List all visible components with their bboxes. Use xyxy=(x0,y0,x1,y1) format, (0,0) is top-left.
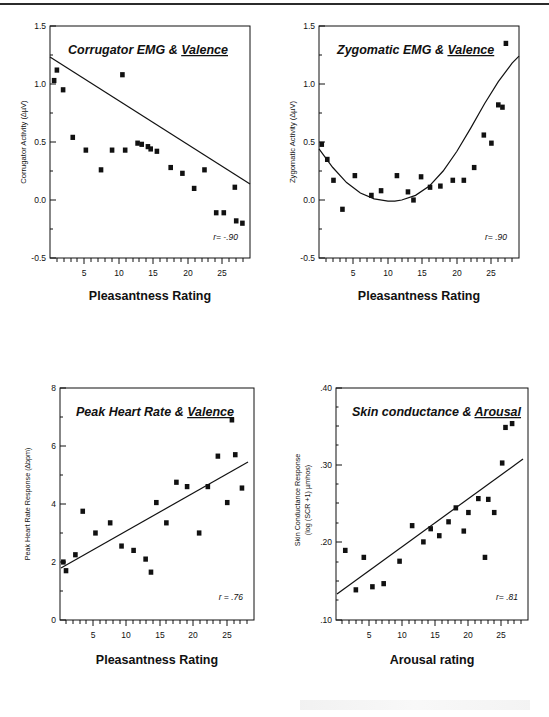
data-point xyxy=(214,210,219,215)
data-point xyxy=(73,552,78,557)
panel-title: Corrugator EMG & Valence xyxy=(68,43,228,57)
x-axis-ticks xyxy=(57,258,243,264)
data-point xyxy=(504,41,509,46)
data-point xyxy=(370,584,375,589)
panel-title: Skin conductance & Arousal xyxy=(352,405,522,419)
plot-frame xyxy=(50,26,250,258)
data-point xyxy=(381,581,386,586)
panel-title-underlined: Valence xyxy=(447,43,494,57)
data-point xyxy=(206,484,211,489)
scatter-plot-skin-conductance: .40 .30 .20 .10 xyxy=(280,370,548,710)
x-tick-label: 15 xyxy=(155,630,165,640)
x-tick-label: 20 xyxy=(183,268,193,278)
panel-corrugator-emg-valence: 1.5 1.0 0.5 0.0 -0.5 xyxy=(6,8,274,338)
x-axis-ticks xyxy=(66,620,247,626)
panel-title-plain: Zygomatic EMG & xyxy=(336,43,447,57)
data-point xyxy=(174,480,179,485)
data-points xyxy=(61,417,244,574)
x-tick-label: 25 xyxy=(217,268,227,278)
data-point xyxy=(164,520,169,525)
page-top-rule xyxy=(0,3,549,5)
panel-title-underlined: Valence xyxy=(181,43,228,57)
x-tick-label: 10 xyxy=(114,268,124,278)
data-point xyxy=(70,135,75,140)
y-axis-label: Skin Conductance Response (log (SCR +1) … xyxy=(293,454,312,547)
y-axis-label: Corrugator Activity (∆µV) xyxy=(19,100,28,184)
data-point xyxy=(472,165,477,170)
data-point xyxy=(397,559,402,564)
x-tick-labels: 5 10 15 20 25 xyxy=(82,268,227,278)
plot-frame xyxy=(319,26,519,258)
data-point xyxy=(353,173,358,178)
y-axis-label: Zygomatic Activity (∆µV) xyxy=(288,101,297,183)
data-point xyxy=(225,500,230,505)
y-tick-label: -0.5 xyxy=(300,253,315,263)
svg-text:Skin conductance & Arousal: Skin conductance & Arousal xyxy=(352,405,522,419)
data-point xyxy=(123,148,128,153)
panel-title-plain: Corrugator EMG & xyxy=(68,43,181,57)
y-tick-label: 2 xyxy=(51,557,56,567)
data-point xyxy=(362,555,367,560)
data-point xyxy=(421,539,426,544)
x-axis-label: Pleasantness Rating xyxy=(96,653,218,667)
data-point xyxy=(80,509,85,514)
scatter-plot-heart-rate: 8 6 4 2 0 xyxy=(6,370,274,710)
panel-title-plain: Skin conductance & xyxy=(352,405,474,419)
y-tick-label: .40 xyxy=(320,383,332,393)
regression-line xyxy=(61,462,248,568)
figure-page: 1.5 1.0 0.5 0.0 -0.5 xyxy=(0,0,549,717)
data-point xyxy=(450,178,455,183)
data-point xyxy=(510,421,515,426)
data-point xyxy=(486,497,491,502)
x-tick-label: 15 xyxy=(417,268,427,278)
data-point xyxy=(131,548,136,553)
scatter-plot-zygomatic: 1.5 1.0 0.5 0.0 -0.5 xyxy=(275,8,543,338)
data-point xyxy=(496,102,501,107)
correlation-annotation: r= .90 xyxy=(485,232,507,242)
data-point xyxy=(492,510,497,515)
data-point xyxy=(230,417,235,422)
panel-zygomatic-emg-valence: 1.5 1.0 0.5 0.0 -0.5 xyxy=(275,8,543,338)
x-tick-labels: 5 10 15 20 25 xyxy=(367,630,506,640)
data-point xyxy=(369,193,374,198)
x-axis-ticks xyxy=(342,620,521,626)
data-point xyxy=(61,559,66,564)
data-point xyxy=(233,185,238,190)
data-point xyxy=(149,570,154,575)
panel-title: Zygomatic EMG & Valence xyxy=(336,43,494,57)
panel-peak-heart-rate-valence: 8 6 4 2 0 xyxy=(6,370,274,710)
y-tick-labels: 8 6 4 2 0 xyxy=(51,383,56,625)
data-point xyxy=(52,78,57,83)
data-point xyxy=(476,496,481,501)
correlation-annotation: r= -.90 xyxy=(213,232,238,242)
y-axis-ticks xyxy=(336,388,342,620)
y-tick-labels: 1.5 1.0 0.5 0.0 -0.5 xyxy=(300,21,315,263)
y-tick-label: 8 xyxy=(51,383,56,393)
data-point xyxy=(343,548,348,553)
y-tick-label: 0.0 xyxy=(34,195,46,205)
panel-title-underlined: Arousal xyxy=(473,405,521,419)
data-point xyxy=(482,132,487,137)
data-points xyxy=(343,421,514,592)
data-point xyxy=(406,189,411,194)
data-point xyxy=(428,185,433,190)
x-tick-label: 5 xyxy=(82,268,87,278)
x-tick-label: 20 xyxy=(188,630,198,640)
y-axis-label-line2: (log (SCR +1) µmhos) xyxy=(303,465,312,535)
data-point xyxy=(500,105,505,110)
data-point xyxy=(202,167,207,172)
data-point xyxy=(354,587,359,592)
data-point xyxy=(319,142,324,147)
panel-skin-conductance-arousal: .40 .30 .20 .10 xyxy=(280,370,548,710)
y-tick-label: .30 xyxy=(320,460,332,470)
correlation-annotation: r= .81 xyxy=(496,592,518,602)
x-tick-label: 10 xyxy=(121,630,131,640)
x-axis-label: Pleasantness Rating xyxy=(358,289,480,303)
x-tick-label: 20 xyxy=(463,630,473,640)
y-tick-label: 4 xyxy=(51,499,56,509)
data-point xyxy=(197,530,202,535)
data-point xyxy=(61,87,66,92)
data-point xyxy=(340,207,345,212)
data-point xyxy=(55,67,60,72)
data-points xyxy=(52,67,245,225)
